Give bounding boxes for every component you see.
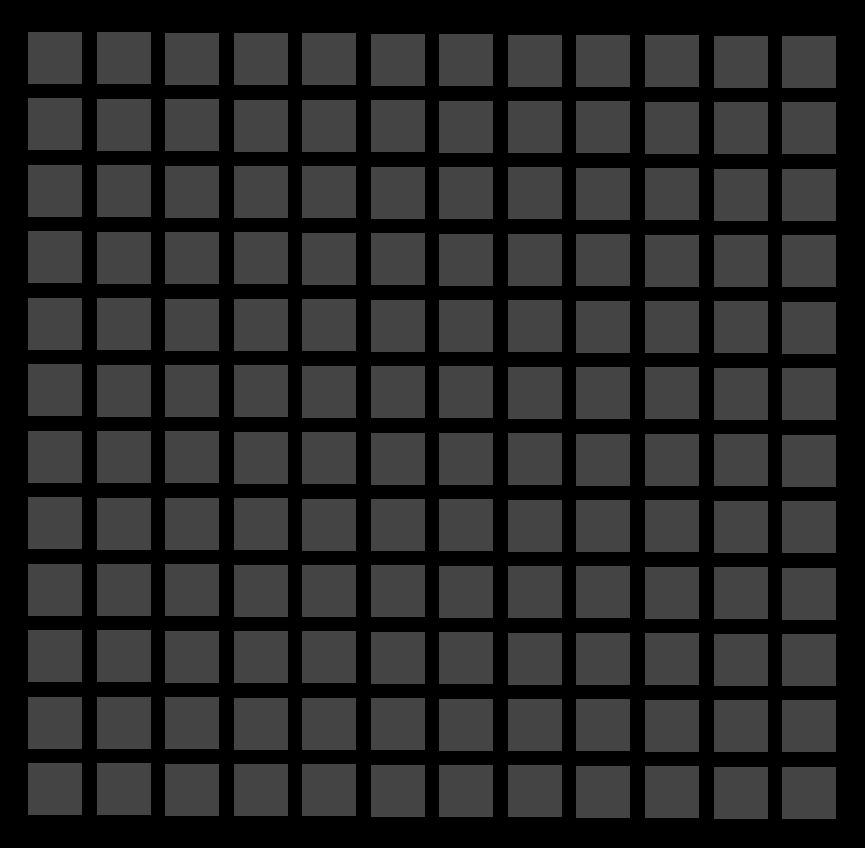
grid-square bbox=[714, 235, 768, 287]
grid-square bbox=[371, 34, 425, 86]
grid-square bbox=[302, 299, 356, 351]
grid-square bbox=[234, 498, 288, 550]
grid-square bbox=[234, 565, 288, 617]
grid-square bbox=[439, 765, 493, 817]
grid-square bbox=[165, 697, 219, 749]
grid-square bbox=[302, 631, 356, 683]
grid-square bbox=[439, 300, 493, 352]
grid-square bbox=[714, 700, 768, 752]
grid-square bbox=[508, 433, 562, 485]
grid-square bbox=[371, 366, 425, 418]
grid-square bbox=[302, 432, 356, 484]
grid-square bbox=[371, 167, 425, 219]
grid-square bbox=[97, 32, 151, 84]
grid-square bbox=[576, 367, 630, 419]
grid-square bbox=[302, 33, 356, 85]
grid-square bbox=[576, 234, 630, 286]
grid-square bbox=[234, 365, 288, 417]
grid-square bbox=[439, 566, 493, 618]
grid-square bbox=[28, 298, 82, 350]
grid-square bbox=[782, 501, 836, 553]
grid-square bbox=[508, 101, 562, 153]
grid-square bbox=[645, 367, 699, 419]
grid-square bbox=[439, 632, 493, 684]
grid-square bbox=[782, 700, 836, 752]
grid-square bbox=[714, 102, 768, 154]
grid-square bbox=[165, 99, 219, 151]
grid-square bbox=[28, 564, 82, 616]
grid-square bbox=[97, 232, 151, 284]
grid-square bbox=[302, 565, 356, 617]
grid-square bbox=[28, 497, 82, 549]
grid-square bbox=[371, 233, 425, 285]
grid-square bbox=[97, 298, 151, 350]
grid-square bbox=[371, 499, 425, 551]
grid-square bbox=[97, 165, 151, 217]
grid-square bbox=[576, 434, 630, 486]
grid-square bbox=[645, 766, 699, 818]
grid-square bbox=[782, 767, 836, 819]
grid-square bbox=[371, 698, 425, 750]
grid-square bbox=[165, 764, 219, 816]
grid-square bbox=[165, 299, 219, 351]
grid-square bbox=[439, 366, 493, 418]
grid-square bbox=[234, 432, 288, 484]
grid-square bbox=[28, 697, 82, 749]
grid-square bbox=[97, 697, 151, 749]
grid-square bbox=[714, 434, 768, 486]
grid-square bbox=[645, 235, 699, 287]
grid-square bbox=[508, 633, 562, 685]
grid-square bbox=[28, 165, 82, 217]
grid-square bbox=[371, 300, 425, 352]
grid-square bbox=[508, 765, 562, 817]
grid-square bbox=[28, 231, 82, 283]
grid-square bbox=[576, 101, 630, 153]
grid-square bbox=[97, 365, 151, 417]
grid-square bbox=[714, 368, 768, 420]
grid-square bbox=[165, 498, 219, 550]
grid-square bbox=[165, 33, 219, 85]
grid-square bbox=[234, 698, 288, 750]
grid-square bbox=[439, 167, 493, 219]
grid-square bbox=[234, 299, 288, 351]
grid-square bbox=[28, 763, 82, 815]
grid-square bbox=[576, 633, 630, 685]
grid-square bbox=[28, 98, 82, 150]
grid-square bbox=[371, 632, 425, 684]
grid-square bbox=[439, 499, 493, 551]
grid-square bbox=[28, 364, 82, 416]
grid-square bbox=[371, 100, 425, 152]
grid-square bbox=[371, 565, 425, 617]
grid-square bbox=[645, 168, 699, 220]
grid-square bbox=[645, 633, 699, 685]
grid-square bbox=[782, 634, 836, 686]
grid-square bbox=[302, 499, 356, 551]
grid-square bbox=[782, 235, 836, 287]
grid-square bbox=[302, 366, 356, 418]
grid-square bbox=[234, 100, 288, 152]
grid-square bbox=[714, 301, 768, 353]
grid-square bbox=[645, 35, 699, 87]
grid-square bbox=[371, 433, 425, 485]
grid-square bbox=[576, 35, 630, 87]
grid-square bbox=[508, 167, 562, 219]
grid-square bbox=[782, 102, 836, 154]
grid-square bbox=[508, 35, 562, 87]
grid-square bbox=[97, 498, 151, 550]
grid-square bbox=[576, 566, 630, 618]
grid-square bbox=[714, 634, 768, 686]
grid-square bbox=[714, 169, 768, 221]
grid-square bbox=[97, 99, 151, 151]
grid-square bbox=[782, 302, 836, 354]
grid-square bbox=[576, 168, 630, 220]
grid-square bbox=[439, 234, 493, 286]
grid-square bbox=[714, 36, 768, 88]
grid-square bbox=[302, 233, 356, 285]
square-grid bbox=[0, 0, 865, 848]
grid-square bbox=[645, 434, 699, 486]
grid-square bbox=[97, 564, 151, 616]
grid-square bbox=[234, 232, 288, 284]
grid-square bbox=[782, 36, 836, 88]
grid-square bbox=[508, 300, 562, 352]
grid-square bbox=[97, 630, 151, 682]
